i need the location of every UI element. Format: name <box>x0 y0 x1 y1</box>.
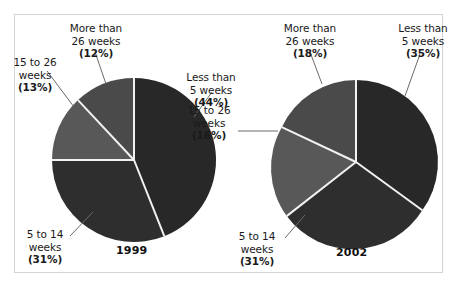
label-percent: (12%) <box>79 47 113 59</box>
label-line-2: 26 weeks <box>72 35 121 47</box>
label-percent: (35%) <box>406 47 440 59</box>
label-line-2: 26 weeks <box>286 35 335 47</box>
figure-canvas: More than 26 weeks (12%) 15 to 26 weeks … <box>0 0 463 291</box>
label-percent: (13%) <box>18 81 52 93</box>
label-5-to-14-weeks-2002: 5 to 14 weeks (31%) <box>226 230 288 268</box>
label-line-2: 5 weeks <box>402 35 444 47</box>
label-less-than-5-weeks-2002: Less than 5 weeks (35%) <box>386 22 460 60</box>
label-line-1: More than <box>70 22 122 34</box>
label-line-2: weeks <box>29 241 62 253</box>
label-percent: (31%) <box>28 253 62 265</box>
label-line-1: 15 to 26 <box>13 56 56 68</box>
label-line-1: 15 to 26 <box>187 104 230 116</box>
label-line-1: Less than <box>398 22 447 34</box>
year-label-2002: 2002 <box>336 246 367 259</box>
pie-chart-1999: More than 26 weeks (12%) 15 to 26 weeks … <box>16 0 231 291</box>
label-line-1: More than <box>284 22 336 34</box>
label-percent: (18%) <box>293 47 327 59</box>
label-line-1: 5 to 14 <box>27 228 64 240</box>
label-5-to-14-weeks-1999: 5 to 14 weeks (31%) <box>14 228 76 266</box>
label-15-to-26-weeks-2002: 15 to 26 weeks (16%) <box>176 104 242 142</box>
label-line-2: weeks <box>241 243 274 255</box>
label-15-to-26-weeks-1999: 15 to 26 weeks (13%) <box>2 56 68 94</box>
label-line-2: 5 weeks <box>190 84 232 96</box>
label-percent: (31%) <box>240 255 274 267</box>
label-more-than-26-weeks-1999: More than 26 weeks (12%) <box>52 22 140 60</box>
year-label-1999: 1999 <box>116 244 147 257</box>
label-line-1: 5 to 14 <box>239 230 276 242</box>
label-percent: (16%) <box>192 129 226 141</box>
label-more-than-26-weeks-2002: More than 26 weeks (18%) <box>266 22 354 60</box>
label-line-1: Less than <box>186 71 235 83</box>
pie-chart-2002: More than 26 weeks (18%) Less than 5 wee… <box>238 0 453 291</box>
label-line-2: weeks <box>19 69 52 81</box>
label-line-2: weeks <box>193 117 226 129</box>
